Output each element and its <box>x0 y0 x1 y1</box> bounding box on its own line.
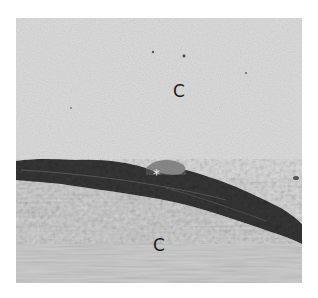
asterisk-marker: * <box>153 167 160 181</box>
label-upper-c: C <box>173 83 185 100</box>
micrograph-image: C C * <box>16 18 302 283</box>
label-lower-c: C <box>153 237 165 254</box>
